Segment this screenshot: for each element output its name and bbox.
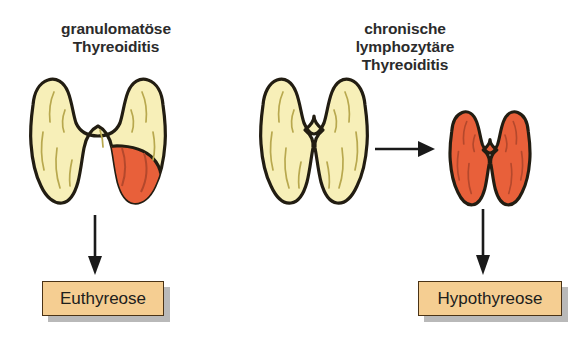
- arrow-right-icon: [374, 136, 436, 166]
- column-heading-lymphocytic: chronische lymphozytäre Thyreoiditis: [300, 20, 510, 74]
- outcome-label: Euthyreose: [60, 289, 146, 309]
- thyroiditis-diagram: granulomatöse Thyreoiditis chronische ly…: [0, 0, 579, 343]
- outcome-box-hypothyreose: Hypothyreose: [418, 281, 562, 316]
- granulomatous-thyroid-gland: [10, 74, 190, 214]
- column-heading-granulomatous: granulomatöse Thyreoiditis: [18, 20, 214, 56]
- normal-thyroid-gland: [250, 74, 378, 214]
- atrophic-thyroid-gland: [440, 108, 540, 214]
- gland-body-normal-tissue: [261, 79, 368, 203]
- arrow-down-icon: [472, 208, 494, 280]
- arrow-down-icon: [84, 214, 106, 280]
- outcome-box-euthyreose: Euthyreose: [42, 281, 164, 316]
- gland-body-inflamed-tissue: [450, 112, 530, 205]
- outcome-label: Hypothyreose: [438, 289, 543, 309]
